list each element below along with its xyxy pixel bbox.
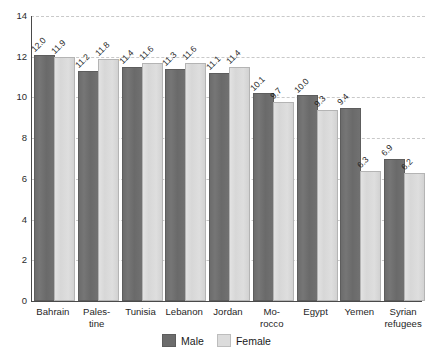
bar-male[interactable] bbox=[209, 73, 230, 301]
x-category-label-line: tine bbox=[69, 318, 125, 330]
legend-swatch-icon bbox=[162, 334, 176, 347]
bar-male[interactable] bbox=[122, 67, 143, 301]
bar-value-label: 11.9 bbox=[50, 39, 67, 56]
bar-female[interactable] bbox=[142, 63, 163, 301]
y-axis-ticks: 02468101214 bbox=[0, 16, 27, 301]
bar-male[interactable] bbox=[297, 95, 318, 301]
bar-female[interactable] bbox=[273, 102, 294, 301]
y-tick-label: 10 bbox=[3, 93, 27, 103]
bar-value-label: 6.9 bbox=[380, 143, 394, 157]
x-category-label-line: refugees bbox=[375, 318, 431, 330]
bar-value-label: 11.3 bbox=[161, 51, 178, 68]
bar-group: 11.311.6 bbox=[162, 16, 206, 301]
bar-group: 6.96.2 bbox=[381, 16, 425, 301]
bar-value-label: 10.1 bbox=[249, 75, 267, 93]
bar-female[interactable] bbox=[317, 110, 338, 301]
bar-value-label: 9.4 bbox=[336, 92, 350, 106]
bar-value-label: 11.1 bbox=[205, 55, 222, 72]
bar-group: 10.09.3 bbox=[294, 16, 338, 301]
bar-value-label: 11.2 bbox=[74, 53, 91, 70]
bar-group: 12.011.9 bbox=[31, 16, 75, 301]
chart-legend: MaleFemale bbox=[0, 334, 433, 347]
x-axis-line bbox=[31, 301, 422, 302]
bar-value-label: 11.4 bbox=[225, 49, 242, 66]
bar-value-label: 11.8 bbox=[94, 41, 111, 58]
bar-female[interactable] bbox=[229, 67, 250, 301]
x-category-label: Syrianrefugees bbox=[375, 306, 431, 329]
legend-item-female[interactable]: Female bbox=[217, 334, 271, 347]
bar-value-label: 11.4 bbox=[117, 49, 134, 66]
bar-female[interactable] bbox=[185, 63, 206, 301]
bar-male[interactable] bbox=[253, 93, 274, 301]
bar-male[interactable] bbox=[340, 108, 361, 301]
legend-label: Female bbox=[236, 335, 271, 347]
x-category-label-line: Syrian bbox=[375, 306, 431, 318]
x-category-label-line: rocco bbox=[244, 318, 300, 330]
legend-item-male[interactable]: Male bbox=[162, 334, 204, 347]
legend-swatch-icon bbox=[217, 334, 231, 347]
bar-group: 9.46.3 bbox=[337, 16, 381, 301]
bar-female[interactable] bbox=[54, 57, 75, 301]
y-tick-label: 14 bbox=[3, 11, 27, 21]
bar-male[interactable] bbox=[165, 69, 186, 301]
bar-group: 10.19.7 bbox=[250, 16, 294, 301]
y-tick-label: 2 bbox=[3, 256, 27, 266]
y-tick-label: 4 bbox=[3, 215, 27, 225]
bar-group: 11.411.6 bbox=[119, 16, 163, 301]
bar-chart: 02468101214 12.011.911.211.811.411.611.3… bbox=[0, 0, 433, 356]
bar-female[interactable] bbox=[98, 59, 119, 301]
legend-label: Male bbox=[181, 335, 204, 347]
bar-male[interactable] bbox=[34, 55, 55, 301]
bar-groups: 12.011.911.211.811.411.611.311.611.111.4… bbox=[31, 16, 425, 301]
bar-value-label: 10.0 bbox=[293, 77, 311, 95]
bar-group: 11.211.8 bbox=[75, 16, 119, 301]
bar-value-label: 12.0 bbox=[30, 36, 48, 54]
bar-female[interactable] bbox=[404, 173, 425, 301]
bar-value-label: 11.6 bbox=[181, 45, 198, 62]
y-tick-label: 0 bbox=[3, 296, 27, 306]
bar-male[interactable] bbox=[78, 71, 99, 301]
bar-group: 11.111.4 bbox=[206, 16, 250, 301]
y-tick-label: 8 bbox=[3, 133, 27, 143]
bar-female[interactable] bbox=[360, 171, 381, 301]
bar-male[interactable] bbox=[384, 159, 405, 301]
y-tick-label: 12 bbox=[3, 52, 27, 62]
bar-value-label: 11.6 bbox=[137, 45, 154, 62]
y-tick-label: 6 bbox=[3, 174, 27, 184]
